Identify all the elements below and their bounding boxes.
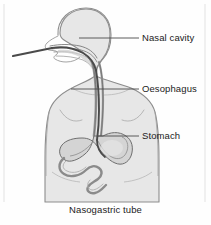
nasogastric-tube-figure: Nasal cavity Oesophagus Stomach Nasogast… bbox=[0, 0, 211, 225]
label-nasal-cavity: Nasal cavity bbox=[142, 33, 194, 43]
label-oesophagus: Oesophagus bbox=[142, 84, 197, 94]
stomach-highlight bbox=[101, 140, 123, 156]
label-stomach: Stomach bbox=[142, 131, 180, 141]
figure-caption: Nasogastric tube bbox=[0, 205, 211, 215]
